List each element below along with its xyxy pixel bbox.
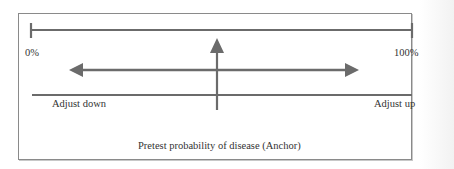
scale-min-label: 0% [25, 47, 39, 59]
probability-scale [31, 23, 412, 38]
adjustment-arrow [69, 63, 359, 77]
arrowhead-left-icon [69, 63, 83, 77]
adjust-up-label: Adjust up [374, 98, 415, 110]
scale-max-label: 100% [394, 47, 419, 59]
anchor-arrow [210, 38, 224, 110]
arrowhead-right-icon [345, 63, 359, 77]
anchor-caption: Pretest probability of disease (Anchor) [138, 140, 301, 151]
arrowhead-up-icon [210, 38, 224, 53]
adjust-down-label: Adjust down [52, 98, 106, 110]
